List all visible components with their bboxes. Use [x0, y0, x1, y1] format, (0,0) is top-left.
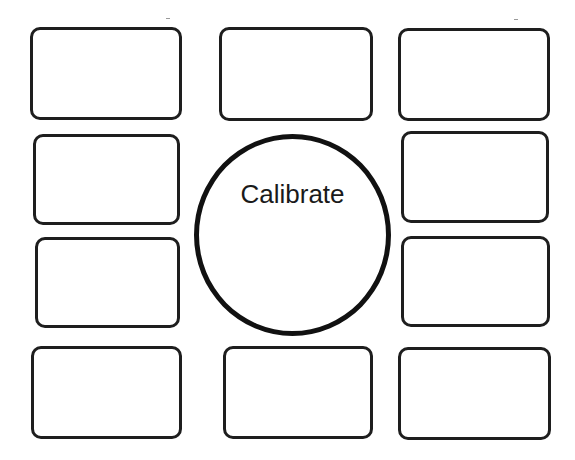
slot-upper-left[interactable]: [33, 134, 180, 225]
slot-top-center[interactable]: [219, 27, 373, 121]
calibrate-button[interactable]: Calibrate: [194, 134, 391, 336]
scan-artifact: [514, 19, 518, 20]
slot-top-left[interactable]: [30, 27, 182, 120]
slot-upper-right[interactable]: [401, 131, 549, 223]
slot-lower-right[interactable]: [401, 236, 550, 327]
slot-top-right[interactable]: [398, 28, 550, 121]
scan-artifact: [166, 18, 170, 19]
slot-lower-left[interactable]: [35, 237, 180, 328]
slot-bottom-right[interactable]: [398, 347, 551, 440]
calibrate-label: Calibrate: [199, 179, 386, 209]
slot-bottom-center[interactable]: [223, 346, 373, 439]
slot-bottom-left[interactable]: [31, 346, 182, 439]
